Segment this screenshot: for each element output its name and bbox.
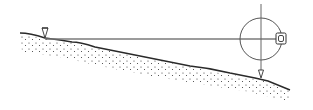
ground-soil bbox=[20, 34, 290, 102]
plumb-bob-icon bbox=[259, 70, 264, 78]
leveling-diagram bbox=[0, 0, 313, 110]
ground-peg-icon bbox=[42, 28, 48, 38]
level-instrument-icon bbox=[276, 33, 286, 44]
